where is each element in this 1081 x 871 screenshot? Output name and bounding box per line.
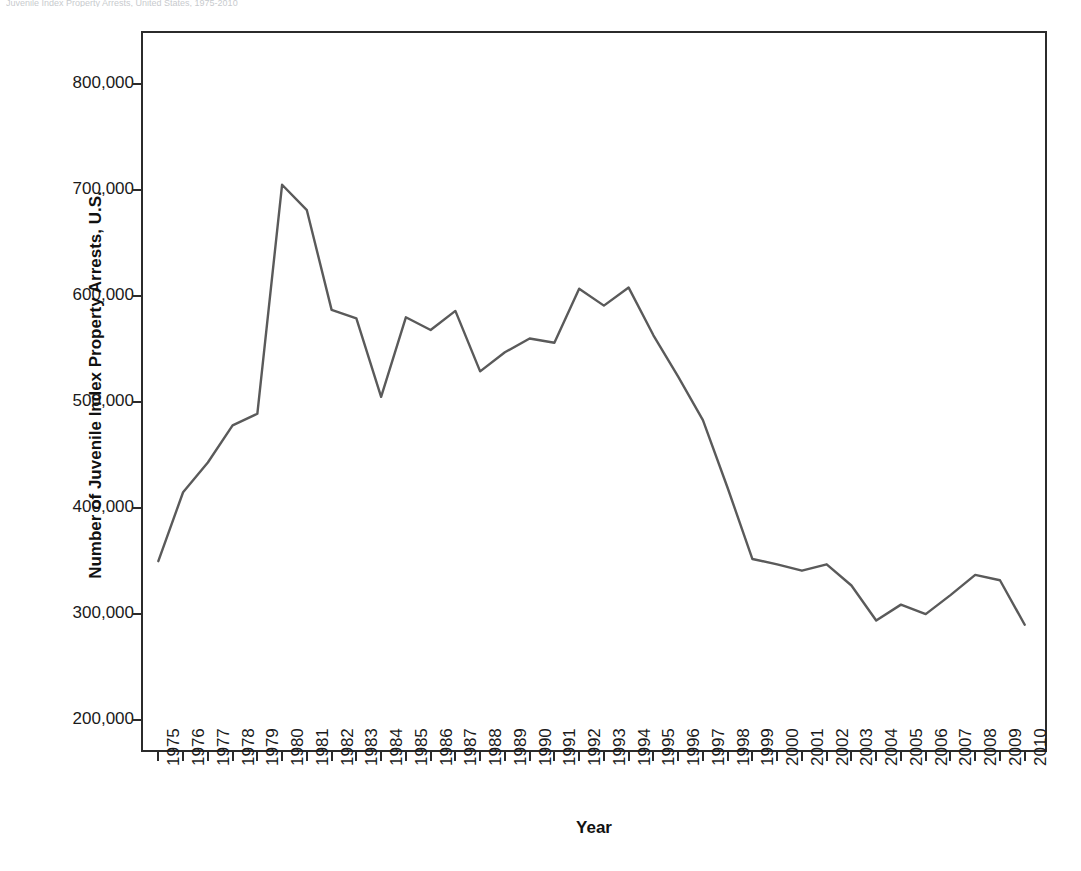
x-tick-mark bbox=[925, 752, 927, 761]
x-tick-mark bbox=[999, 752, 1001, 761]
x-tick-mark bbox=[628, 752, 630, 761]
x-tick-mark bbox=[578, 752, 580, 761]
x-tick-mark bbox=[677, 752, 679, 761]
x-tick-mark bbox=[900, 752, 902, 761]
x-tick-mark bbox=[974, 752, 976, 761]
x-axis-ticks: 1975197619771978197919801981198219831984… bbox=[0, 0, 1081, 871]
x-tick-mark bbox=[553, 752, 555, 761]
x-tick-mark bbox=[182, 752, 184, 761]
x-tick-mark bbox=[405, 752, 407, 761]
x-tick-mark bbox=[331, 752, 333, 761]
x-tick-mark bbox=[281, 752, 283, 761]
x-tick-mark bbox=[875, 752, 877, 761]
x-tick-mark bbox=[850, 752, 852, 761]
x-tick-mark bbox=[207, 752, 209, 761]
x-tick-mark bbox=[702, 752, 704, 761]
x-tick-mark bbox=[826, 752, 828, 761]
x-tick-mark bbox=[355, 752, 357, 761]
x-tick-mark bbox=[652, 752, 654, 761]
x-tick-mark bbox=[751, 752, 753, 761]
x-tick-mark bbox=[603, 752, 605, 761]
x-tick-mark bbox=[529, 752, 531, 761]
chart-figure: Juvenile Index Property Arrests, United … bbox=[0, 0, 1081, 871]
x-tick-mark bbox=[380, 752, 382, 761]
x-tick-mark bbox=[454, 752, 456, 761]
x-tick-label: 2010 bbox=[1031, 746, 1051, 766]
x-tick-mark bbox=[504, 752, 506, 761]
x-tick-mark bbox=[1024, 752, 1026, 761]
x-tick-mark bbox=[232, 752, 234, 761]
x-tick-mark bbox=[157, 752, 159, 761]
x-tick-mark bbox=[727, 752, 729, 761]
x-axis-title: Year bbox=[141, 818, 1047, 838]
x-tick-mark bbox=[801, 752, 803, 761]
x-tick-mark bbox=[256, 752, 258, 761]
x-tick-mark bbox=[949, 752, 951, 761]
x-tick-mark bbox=[306, 752, 308, 761]
x-tick-mark bbox=[479, 752, 481, 761]
x-tick-mark bbox=[776, 752, 778, 761]
x-tick-mark bbox=[430, 752, 432, 761]
